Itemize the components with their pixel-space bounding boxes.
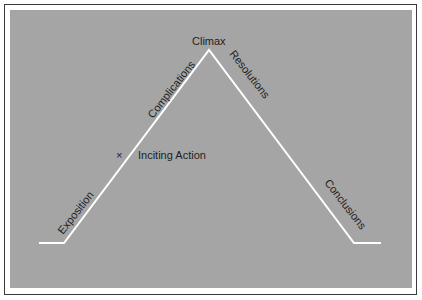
conclusions-label: Conclusions xyxy=(322,177,369,232)
plot-structure-diagram: Climax Exposition Complications Resoluti… xyxy=(0,0,422,300)
inciting-action-marker-icon: × xyxy=(116,149,122,161)
inciting-action-label: Inciting Action xyxy=(138,149,206,161)
complications-label: Complications xyxy=(145,58,197,120)
plot-line xyxy=(39,50,381,243)
climax-label: Climax xyxy=(192,35,226,47)
resolutions-label: Resolutions xyxy=(227,48,272,101)
